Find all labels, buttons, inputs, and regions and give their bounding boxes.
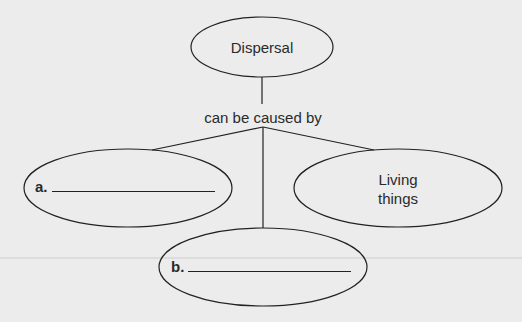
- living-things-line2: things: [348, 189, 448, 208]
- living-things-line1: Living: [348, 170, 448, 189]
- connector-label: can be caused by: [192, 109, 334, 126]
- blank-a-line[interactable]: [52, 191, 215, 192]
- blank-a-letter: a.: [35, 178, 48, 195]
- branch-right: [263, 127, 374, 150]
- branch-left: [152, 127, 263, 150]
- blank-b-line[interactable]: [188, 271, 351, 272]
- answer-blank-b[interactable]: b.: [171, 258, 351, 275]
- answer-blank-a[interactable]: a.: [35, 178, 215, 195]
- root-node-label: Dispersal: [212, 38, 312, 57]
- blank-b-letter: b.: [171, 258, 184, 275]
- living-things-label: Living things: [348, 170, 448, 208]
